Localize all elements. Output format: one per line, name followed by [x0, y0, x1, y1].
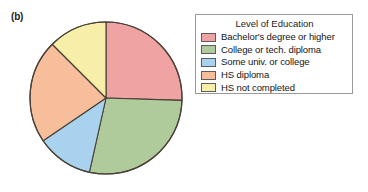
legend: Level of Education Bachelor's degree or …	[195, 14, 353, 94]
legend-color-swatch	[201, 45, 216, 54]
panel-label: (b)	[11, 12, 23, 22]
legend-color-swatch	[201, 71, 216, 80]
legend-color-swatch	[201, 83, 216, 92]
legend-entry[interactable]: Bachelor's degree or higher	[201, 31, 348, 44]
legend-title: Level of Education	[201, 18, 348, 30]
legend-entry-label: Some univ. or college	[221, 56, 310, 68]
legend-entry-label: HS diploma	[221, 69, 269, 81]
legend-entry-list: Bachelor's degree or higherCollege or te…	[201, 31, 348, 94]
pie-slice[interactable]	[106, 22, 182, 100]
legend-color-swatch	[201, 33, 216, 42]
pie-chart-svg	[28, 20, 184, 176]
legend-entry-label: HS not completed	[221, 82, 295, 94]
legend-entry[interactable]: HS diploma	[201, 69, 348, 82]
figure-panel: (b) Level of Education Bachelor's degree…	[0, 0, 368, 192]
legend-color-swatch	[201, 58, 216, 67]
legend-entry[interactable]: College or tech. diploma	[201, 44, 348, 57]
pie-chart	[28, 20, 184, 176]
legend-entry[interactable]: Some univ. or college	[201, 56, 348, 69]
legend-entry-label: Bachelor's degree or higher	[221, 31, 335, 43]
legend-entry[interactable]: HS not completed	[201, 81, 348, 94]
pie-slice-group	[30, 22, 182, 174]
legend-entry-label: College or tech. diploma	[221, 44, 321, 56]
